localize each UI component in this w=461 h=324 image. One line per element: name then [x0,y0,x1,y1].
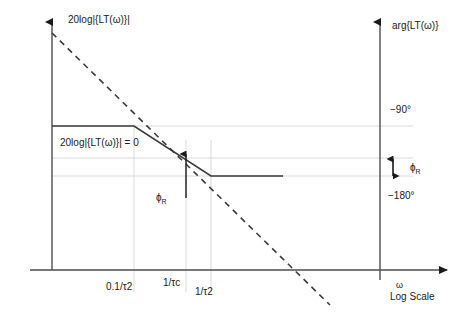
phase-margin-subscript-right: R [416,168,421,175]
phase-margin-label-center: ϕR [156,192,167,206]
horizontal-gridlines [52,126,413,176]
uncompensated-gain-curve [52,33,330,305]
magnitude-axis-label: 20log|{LT(ω)}| [68,14,130,25]
phase-margin-label-right: ϕR [410,162,421,176]
phase-tick-minus-90: −90° [390,104,411,115]
phase-axis-label: arg{LT(ω)} [392,20,439,31]
log-scale-label: Log Scale [390,291,434,302]
bode-plot-figure: 20log|{LT(ω)}| arg{LT(ω)} 20log|{LT(ω)}|… [0,0,461,324]
frequency-tick-0p1-over-tau2: 0.1/τ2 [106,281,132,292]
frequency-tick-1-over-tau2: 1/τ2 [195,286,213,297]
phase-margin-subscript-center: R [162,198,167,205]
bode-plot-canvas [0,0,461,324]
zero-db-annotation: 20log|{LT(ω)}| = 0 [60,137,139,148]
axes [30,22,447,280]
phase-tick-minus-180: −180° [388,190,415,201]
omega-symbol-label: ω [396,281,403,291]
frequency-tick-1-over-tauc: 1/τc [163,277,180,288]
compensated-gain-curve [52,126,283,176]
